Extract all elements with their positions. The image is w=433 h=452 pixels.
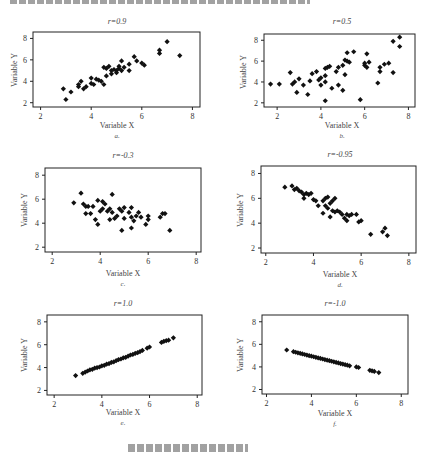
panel-c: r=-0.3 24682468 Variable Y Variable X c. bbox=[0, 145, 216, 295]
svg-text:4: 4 bbox=[100, 400, 104, 409]
svg-text:8: 8 bbox=[254, 36, 258, 45]
data-point bbox=[95, 222, 100, 227]
data-point bbox=[316, 203, 321, 208]
data-point bbox=[134, 58, 139, 63]
data-point bbox=[320, 211, 325, 216]
data-point bbox=[146, 217, 151, 222]
data-point bbox=[282, 185, 287, 190]
data-point bbox=[340, 63, 345, 68]
data-point bbox=[61, 86, 66, 91]
svg-text:6: 6 bbox=[359, 258, 363, 267]
data-point bbox=[119, 228, 124, 233]
panel-a-ylabel: Variable Y bbox=[10, 53, 19, 87]
svg-text:8: 8 bbox=[406, 112, 410, 121]
data-point bbox=[391, 70, 396, 75]
data-point bbox=[288, 70, 293, 75]
data-point bbox=[340, 88, 345, 93]
data-point bbox=[342, 72, 347, 77]
data-point bbox=[366, 60, 371, 65]
svg-text:4: 4 bbox=[309, 399, 313, 408]
panel-e-ylabel: Variable Y bbox=[20, 338, 29, 372]
data-point bbox=[122, 216, 127, 221]
panel-e-plot: 24682468 bbox=[0, 295, 216, 448]
svg-text:4: 4 bbox=[319, 112, 323, 121]
svg-text:2: 2 bbox=[52, 400, 56, 409]
panel-b: r=0.5 24682468 Variable Y Variable X b. bbox=[210, 0, 433, 150]
svg-text:2: 2 bbox=[264, 399, 268, 408]
svg-text:2: 2 bbox=[264, 258, 268, 267]
svg-text:2: 2 bbox=[23, 99, 27, 108]
data-point bbox=[305, 92, 310, 97]
data-point bbox=[119, 58, 124, 63]
data-point bbox=[329, 86, 334, 91]
svg-text:6: 6 bbox=[37, 341, 41, 350]
data-point bbox=[345, 50, 350, 55]
data-point bbox=[177, 53, 182, 58]
data-point bbox=[127, 62, 132, 67]
data-point bbox=[132, 54, 137, 59]
cropped-text-bottom bbox=[128, 444, 248, 452]
panel-c-sublabel: c. bbox=[121, 280, 126, 288]
svg-text:8: 8 bbox=[195, 400, 199, 409]
data-point bbox=[107, 217, 112, 222]
svg-text:4: 4 bbox=[23, 77, 27, 86]
panel-c-xlabel: Variable X bbox=[106, 269, 140, 278]
data-point bbox=[382, 62, 387, 67]
svg-text:4: 4 bbox=[35, 219, 39, 228]
panel-b-xlabel: Variable X bbox=[325, 121, 359, 130]
svg-text:8: 8 bbox=[194, 257, 198, 266]
data-point bbox=[78, 191, 83, 196]
data-point bbox=[336, 65, 341, 70]
data-point bbox=[310, 71, 315, 76]
data-point bbox=[68, 89, 73, 94]
panel-a-xlabel: Variable X bbox=[100, 121, 134, 130]
svg-text:6: 6 bbox=[252, 340, 256, 349]
data-point bbox=[157, 51, 162, 56]
data-point bbox=[129, 225, 134, 230]
data-point bbox=[301, 83, 306, 88]
svg-text:2: 2 bbox=[251, 244, 255, 253]
data-point bbox=[351, 49, 356, 54]
data-point bbox=[323, 98, 328, 103]
data-point bbox=[93, 217, 98, 222]
panel-b-ylabel: Variable Y bbox=[239, 55, 248, 89]
data-point bbox=[294, 90, 299, 95]
data-point bbox=[109, 71, 114, 76]
data-point bbox=[127, 68, 132, 73]
panel-b-sublabel: b. bbox=[339, 132, 344, 140]
svg-text:6: 6 bbox=[251, 194, 255, 203]
svg-text:4: 4 bbox=[252, 363, 256, 372]
data-point bbox=[88, 211, 93, 216]
data-point bbox=[167, 228, 172, 233]
data-point bbox=[90, 204, 95, 209]
svg-text:2: 2 bbox=[252, 385, 256, 394]
data-point bbox=[165, 39, 170, 44]
data-point bbox=[336, 83, 341, 88]
data-point bbox=[375, 80, 380, 85]
data-point bbox=[104, 73, 109, 78]
data-point bbox=[95, 198, 100, 203]
svg-text:2: 2 bbox=[254, 99, 258, 108]
svg-text:2: 2 bbox=[37, 386, 41, 395]
svg-text:4: 4 bbox=[37, 364, 41, 373]
data-point bbox=[129, 205, 134, 210]
data-point bbox=[171, 335, 176, 340]
panel-e-sublabel: e. bbox=[121, 419, 126, 427]
data-point bbox=[323, 73, 328, 78]
data-point bbox=[301, 196, 306, 201]
data-point bbox=[397, 35, 402, 40]
svg-text:6: 6 bbox=[35, 195, 39, 204]
data-point bbox=[73, 373, 78, 378]
panel-f-xlabel: Variable X bbox=[318, 409, 352, 418]
data-point bbox=[377, 69, 382, 74]
panel-e: r=1.0 24682468 Variable Y Variable X e. bbox=[0, 295, 216, 448]
svg-text:4: 4 bbox=[311, 258, 315, 267]
panel-d: r=-0.95 24682468 Variable Y Variable X d… bbox=[210, 145, 433, 295]
data-point bbox=[354, 212, 359, 217]
data-point bbox=[368, 232, 373, 237]
svg-text:6: 6 bbox=[254, 57, 258, 66]
data-point bbox=[126, 210, 131, 215]
data-point bbox=[364, 51, 369, 56]
svg-text:6: 6 bbox=[146, 257, 150, 266]
svg-text:8: 8 bbox=[35, 171, 39, 180]
